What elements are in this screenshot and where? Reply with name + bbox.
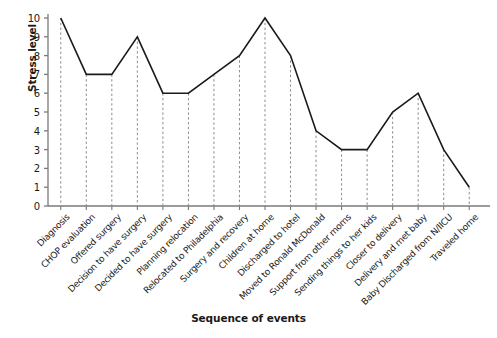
axis-lines [44, 14, 490, 210]
droplines [61, 18, 469, 206]
plot-area [0, 0, 497, 338]
stress-level-line-chart: Stress level Sequence of events 01234567… [0, 0, 497, 338]
